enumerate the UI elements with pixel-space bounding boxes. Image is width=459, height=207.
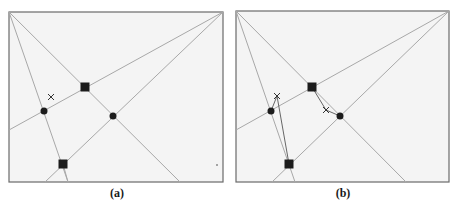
circle-marker xyxy=(110,113,117,120)
circle-marker xyxy=(268,108,275,115)
square-marker xyxy=(81,83,90,92)
figure-canvas xyxy=(0,0,459,207)
panel-b xyxy=(236,11,449,182)
square-marker xyxy=(308,83,317,92)
square-marker xyxy=(285,160,294,169)
circle-marker xyxy=(337,113,344,120)
circle-marker xyxy=(41,108,48,115)
square-marker xyxy=(59,160,68,169)
panel-a xyxy=(9,12,223,182)
panel-a-frame xyxy=(9,12,223,182)
panel-b-frame xyxy=(236,11,449,182)
panel-b-caption: (b) xyxy=(323,186,363,201)
panel-a-caption: (a) xyxy=(97,186,137,201)
